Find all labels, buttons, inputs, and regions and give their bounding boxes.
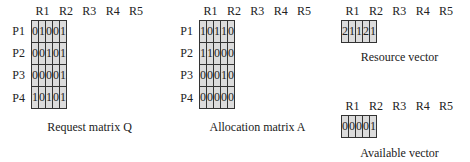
grid-row: 01001 — [32, 21, 67, 43]
grid-row: 21121 — [342, 21, 377, 43]
row-label: P3 — [7, 68, 25, 83]
column-header: R5 — [125, 4, 148, 19]
column-header: R2 — [364, 4, 387, 19]
row-label: P2 — [7, 46, 25, 61]
row-label: P4 — [7, 91, 25, 106]
row-label: P2 — [175, 46, 193, 61]
grid-row: 00001 — [342, 116, 377, 138]
grid-cell: 0 — [228, 65, 235, 87]
grid-cell: 0 — [228, 87, 235, 109]
column-header: R5 — [293, 4, 316, 19]
grid-cell: 1 — [60, 21, 67, 43]
column-header: R5 — [435, 4, 458, 19]
grid-cell: 0 — [200, 87, 207, 109]
grid-cell: 0 — [228, 21, 235, 43]
grid-cell: 1 — [46, 43, 53, 65]
grid-cell: 1 — [60, 43, 67, 65]
column-header: R4 — [101, 4, 124, 19]
column-header: R3 — [388, 99, 411, 114]
grid-row: 11000 — [200, 43, 235, 65]
allocation-matrix-caption: Allocation matrix A — [199, 120, 316, 135]
column-header: R1 — [341, 4, 364, 19]
column-header: R2 — [364, 99, 387, 114]
grid-cell: 1 — [200, 43, 207, 65]
column-header: R1 — [341, 99, 364, 114]
grid-cell: 0 — [200, 65, 207, 87]
column-header: R1 — [31, 4, 54, 19]
grid-row: 00101 — [32, 43, 67, 65]
grid-cell: 1 — [46, 87, 53, 109]
grid-cell: 1 — [370, 116, 377, 138]
grid-cell: 0 — [221, 43, 228, 65]
grid-cell: 1 — [32, 87, 39, 109]
grid-cell: 1 — [214, 21, 221, 43]
column-header: R3 — [78, 4, 101, 19]
grid-cell: 0 — [39, 65, 46, 87]
grid: 10110110000001000000 — [199, 20, 235, 109]
grid-cell: 0 — [46, 65, 53, 87]
grid: 21121 — [341, 20, 377, 43]
grid-cell: 0 — [53, 21, 60, 43]
grid-cell: 1 — [370, 21, 377, 43]
request-matrix-caption: Request matrix Q — [31, 120, 148, 135]
grid-cell: 0 — [39, 87, 46, 109]
grid-cell: 0 — [221, 87, 228, 109]
grid-cell: 1 — [60, 87, 67, 109]
column-header: R2 — [222, 4, 245, 19]
grid-row: 00000 — [200, 87, 235, 109]
grid-cell: 0 — [32, 43, 39, 65]
grid-cell: 1 — [207, 43, 214, 65]
grid-cell: 0 — [214, 87, 221, 109]
grid-cell: 0 — [32, 65, 39, 87]
column-header: R3 — [388, 4, 411, 19]
grid-cell: 1 — [39, 21, 46, 43]
grid-cell: 0 — [32, 21, 39, 43]
grid-cell: 0 — [356, 116, 363, 138]
grid-cell: 0 — [207, 65, 214, 87]
row-label: P3 — [175, 68, 193, 83]
column-header: R5 — [435, 99, 458, 114]
row-label: P4 — [175, 91, 193, 106]
grid-cell: 1 — [221, 21, 228, 43]
grid: 00001 — [341, 115, 377, 138]
grid-cell: 1 — [60, 65, 67, 87]
column-header: R3 — [246, 4, 269, 19]
grid-cell: 1 — [349, 21, 356, 43]
available-vector-caption: Available vector — [341, 146, 458, 161]
grid-cell: 2 — [363, 21, 370, 43]
grid-cell: 0 — [53, 87, 60, 109]
grid-cell: 2 — [342, 21, 349, 43]
grid-cell: 0 — [39, 43, 46, 65]
grid-cell: 0 — [349, 116, 356, 138]
grid-cell: 0 — [228, 43, 235, 65]
column-header: R4 — [411, 99, 434, 114]
grid-row: 00010 — [200, 65, 235, 87]
grid-cell: 0 — [46, 21, 53, 43]
grid-cell: 0 — [214, 65, 221, 87]
grid-cell: 0 — [53, 43, 60, 65]
grid-cell: 0 — [53, 65, 60, 87]
grid-cell: 0 — [342, 116, 349, 138]
column-header: R4 — [269, 4, 292, 19]
grid-cell: 0 — [363, 116, 370, 138]
column-header: R2 — [54, 4, 77, 19]
grid-row: 00001 — [32, 65, 67, 87]
grid-row: 10110 — [200, 21, 235, 43]
grid-cell: 1 — [221, 65, 228, 87]
grid-cell: 1 — [200, 21, 207, 43]
grid-cell: 0 — [207, 87, 214, 109]
resource-vector-caption: Resource vector — [341, 50, 458, 65]
row-label: P1 — [175, 24, 193, 39]
column-header: R1 — [199, 4, 222, 19]
column-header: R4 — [411, 4, 434, 19]
grid: 01001001010000110101 — [31, 20, 67, 109]
row-label: P1 — [7, 24, 25, 39]
grid-cell: 0 — [207, 21, 214, 43]
grid-cell: 1 — [356, 21, 363, 43]
grid-cell: 0 — [214, 43, 221, 65]
grid-row: 10101 — [32, 87, 67, 109]
